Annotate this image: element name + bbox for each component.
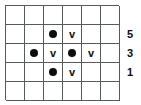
- grid-cell[interactable]: [101, 25, 120, 44]
- grid-cell[interactable]: [63, 44, 82, 63]
- grid-cell[interactable]: [25, 44, 44, 63]
- grid-cell[interactable]: [44, 25, 63, 44]
- grid-cell[interactable]: [6, 82, 25, 101]
- filled-circle-icon: [30, 49, 38, 57]
- grid-cell[interactable]: [44, 82, 63, 101]
- symbol-grid: vvvv: [5, 5, 119, 100]
- grid-cell[interactable]: [101, 82, 120, 101]
- grid-cell[interactable]: [6, 63, 25, 82]
- filled-circle-icon: [49, 68, 57, 76]
- diagram-canvas: vvvv 531: [0, 0, 141, 105]
- row-label: 3: [119, 43, 141, 62]
- grid-cell[interactable]: [25, 63, 44, 82]
- grid-cell[interactable]: [25, 82, 44, 101]
- grid-cell[interactable]: [25, 25, 44, 44]
- filled-circle-icon: [49, 30, 57, 38]
- grid-cell[interactable]: [63, 82, 82, 101]
- letter-v-icon: v: [50, 47, 56, 58]
- letter-v-icon: v: [88, 47, 94, 58]
- grid-cell[interactable]: [101, 44, 120, 63]
- grid-cell[interactable]: v: [63, 25, 82, 44]
- grid-cell[interactable]: [44, 63, 63, 82]
- grid-cell[interactable]: [82, 25, 101, 44]
- grid-cell[interactable]: v: [82, 44, 101, 63]
- grid-cell[interactable]: [25, 6, 44, 25]
- grid-cell[interactable]: [101, 6, 120, 25]
- row-label: 1: [119, 62, 141, 81]
- grid-cell[interactable]: v: [44, 44, 63, 63]
- letter-v-icon: v: [69, 28, 75, 39]
- grid-cell[interactable]: [101, 63, 120, 82]
- grid-cell[interactable]: [82, 82, 101, 101]
- row-label: 5: [119, 24, 141, 43]
- grid-cell[interactable]: [44, 6, 63, 25]
- row-label-column: 531: [119, 5, 141, 100]
- grid-cell[interactable]: [6, 25, 25, 44]
- filled-circle-icon: [68, 49, 76, 57]
- grid-cell[interactable]: [6, 6, 25, 25]
- letter-v-icon: v: [69, 66, 75, 77]
- grid-cell[interactable]: v: [63, 63, 82, 82]
- grid-cell[interactable]: [6, 44, 25, 63]
- grid-cell[interactable]: [82, 6, 101, 25]
- grid-cell[interactable]: [82, 63, 101, 82]
- grid-cell[interactable]: [63, 6, 82, 25]
